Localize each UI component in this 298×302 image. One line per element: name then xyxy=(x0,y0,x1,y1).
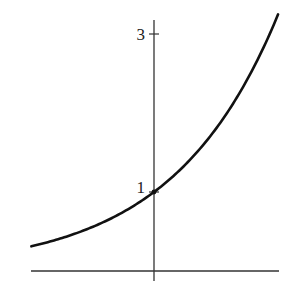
y-tick-label: 3 xyxy=(137,25,146,44)
exponential-curve xyxy=(31,14,278,246)
axes xyxy=(31,20,279,281)
y-tick-label: 1 xyxy=(137,178,146,197)
y-intercept-point xyxy=(152,190,157,195)
y-axis-ticks: 13 xyxy=(137,25,160,197)
exponential-chart: 13 xyxy=(0,0,298,302)
